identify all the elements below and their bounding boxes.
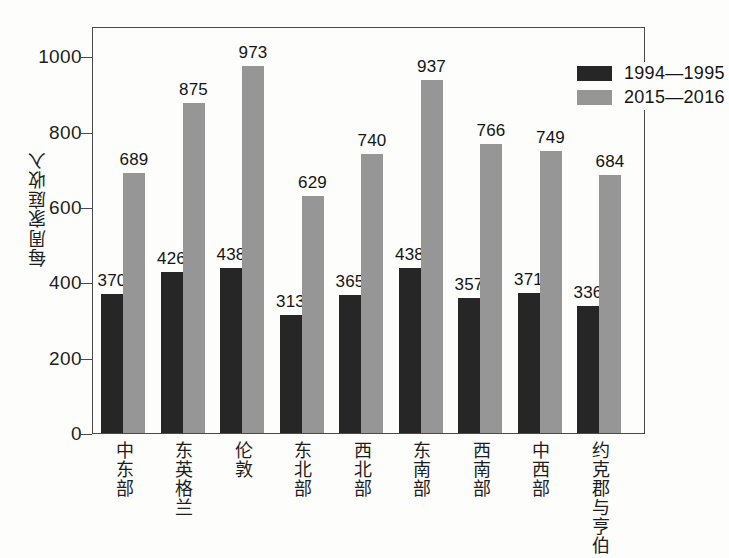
bar-value-label: 766 [477,121,506,141]
y-tick-label: 800 [18,122,82,144]
y-tick-label: 400 [18,272,82,294]
bar-value-label: 937 [417,57,446,77]
bar-value-label: 684 [596,152,625,172]
bar-value-label: 689 [120,150,149,170]
bar-0-1 [161,272,183,433]
legend-entry-0: 1994—1995 [577,65,725,82]
bar-0-7 [518,293,540,433]
bar-1-5 [421,80,443,433]
bar-1-3 [302,196,324,433]
bar-0-4 [339,295,361,433]
plot-area: 3706894268754389733136293657404389373577… [92,27,645,434]
y-axis-title: 每周家庭收入 [26,150,52,340]
y-tick-mark [81,359,92,360]
y-tick-mark [81,57,92,58]
bar-value-label: 973 [239,43,268,63]
x-axis-label-2: 伦敦 [231,441,252,479]
dark-swatch-icon [577,66,612,81]
bar-1-4 [361,154,383,433]
bar-0-0 [101,294,123,433]
bar-1-6 [480,144,502,433]
x-axis-label-1: 东英格兰 [171,441,192,517]
bar-1-0 [123,173,145,433]
y-tick-mark [81,208,92,209]
y-tick-label: 1000 [18,46,82,68]
y-tick-mark [81,283,92,284]
bar-0-8 [577,306,599,433]
bar-value-label: 749 [536,128,565,148]
gray-swatch-icon [577,90,612,105]
x-axis-label-5: 东南部 [409,441,430,498]
bar-value-label: 875 [179,80,208,100]
legend-label-0: 1994—1995 [624,63,725,84]
y-tick-label: 600 [18,197,82,219]
y-tick-label: 200 [18,348,82,370]
x-axis-label-0: 中东部 [112,441,133,498]
y-tick-mark [81,133,92,134]
legend-label-1: 2015—2016 [624,87,725,108]
bar-value-label: 629 [298,173,327,193]
legend: 1994—1995 2015—2016 [573,62,729,110]
bar-0-6 [458,298,480,433]
bar-1-1 [183,103,205,433]
x-axis-label-6: 西南部 [469,441,490,498]
bar-1-8 [599,175,621,433]
legend-entry-1: 2015—2016 [577,89,725,106]
x-axis-label-7: 中西部 [528,441,549,498]
bar-0-3 [280,315,302,433]
bar-value-label: 740 [358,131,387,151]
bar-0-5 [399,268,421,433]
y-tick-label: 0 [18,423,82,445]
bar-1-7 [540,151,562,433]
y-tick-mark [81,434,92,435]
bar-1-2 [242,66,264,433]
x-axis-label-3: 东北部 [290,441,311,498]
x-axis-label-8: 约克郡与亨伯 [588,441,609,555]
bar-0-2 [220,268,242,433]
x-axis-label-4: 西北部 [350,441,371,498]
